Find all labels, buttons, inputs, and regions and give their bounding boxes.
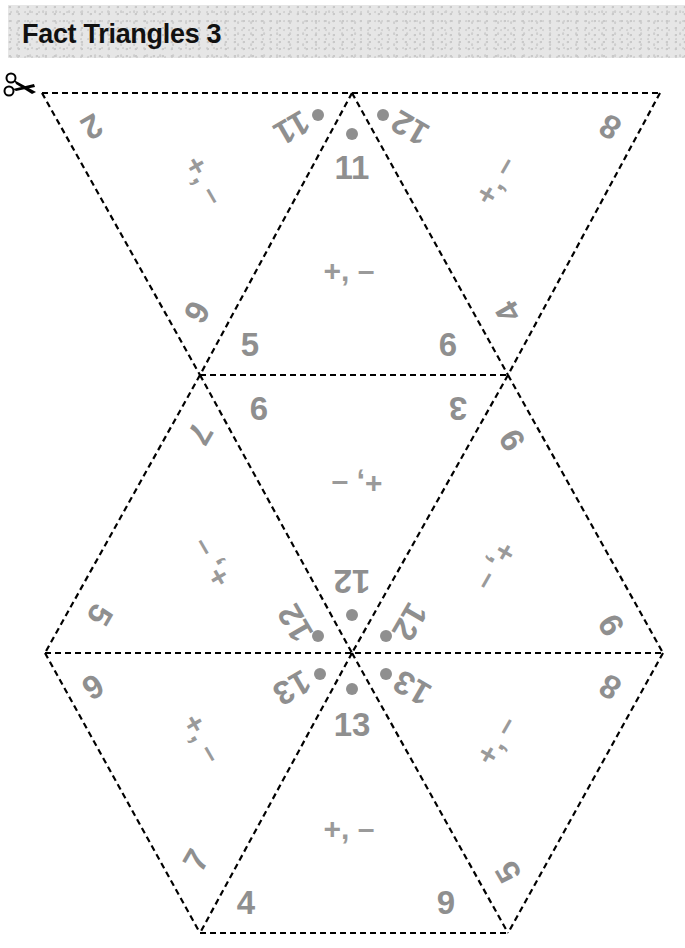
svg-text:3: 3 [449,390,467,427]
svg-text:6: 6 [250,390,268,427]
svg-text:6: 6 [439,326,457,363]
svg-text:+, –: +, – [176,708,230,769]
fact-triangle-3[interactable]: 12 8 4 +, – [377,103,627,329]
svg-text:12: 12 [385,103,435,153]
svg-text:+, –: +, – [178,150,232,211]
svg-text:5: 5 [79,598,120,632]
svg-text:12: 12 [334,563,371,600]
svg-text:4: 4 [487,294,529,329]
fact-triangle-5[interactable]: 6 3 12 +, – [250,390,467,622]
svg-text:+, –: +, – [324,812,375,845]
sum-dot [380,630,392,642]
sum-dot [312,109,324,121]
svg-text:9: 9 [437,884,455,921]
fact-triangle-8[interactable]: 13 4 9 +, – [237,683,455,921]
svg-text:8: 8 [593,666,627,707]
fact-triangle-2[interactable]: 11 5 6 +, – [241,128,457,363]
sum-dot [346,609,358,621]
svg-text:2: 2 [75,106,109,147]
sum-dot [346,683,358,695]
fact-triangles-sheet: 2 11 9 +, – 11 5 6 +, – 12 8 4 +, – 7 5 … [0,0,685,948]
svg-text:11: 11 [335,149,370,186]
svg-text:13: 13 [334,706,371,743]
svg-text:+, –: +, – [470,537,524,598]
svg-text:9: 9 [176,295,217,329]
svg-text:6: 6 [76,666,110,707]
svg-text:7: 7 [175,843,216,877]
svg-text:+, –: +, – [469,710,523,771]
svg-text:9: 9 [491,423,532,457]
sum-dot [380,668,392,680]
sum-dot [346,128,358,140]
svg-text:+, –: +, – [324,254,375,287]
svg-text:+, –: +, – [468,150,522,211]
svg-text:12: 12 [270,598,320,648]
svg-text:5: 5 [487,855,528,889]
svg-text:8: 8 [593,106,627,147]
sum-dot [312,630,324,642]
cut-lines [42,93,663,933]
fact-triangle-9[interactable]: 13 8 5 +, – [380,663,627,889]
svg-text:+, –: +, – [332,468,383,501]
svg-text:12: 12 [385,597,435,647]
svg-text:9: 9 [590,608,631,642]
sum-dot [377,109,389,121]
svg-text:13: 13 [267,663,317,713]
svg-text:+, –: +, – [183,533,237,594]
svg-text:5: 5 [241,326,259,363]
svg-text:13: 13 [387,663,437,713]
sum-dot [314,668,326,680]
svg-text:7: 7 [179,417,220,451]
svg-text:4: 4 [237,884,256,921]
svg-text:11: 11 [268,103,317,152]
